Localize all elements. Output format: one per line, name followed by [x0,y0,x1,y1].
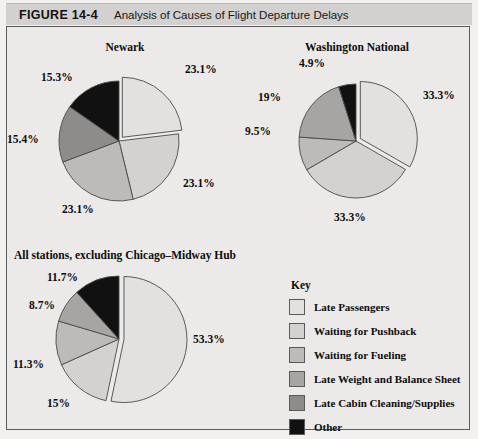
figure-title-label: Analysis of Causes of Flight Departure D… [114,9,349,21]
pie-slice-percent-label: 23.1% [62,203,94,215]
pie-chart [42,262,196,416]
figure-number-label: FIGURE 14-4 [19,8,98,22]
pie-slice-percent-label: 4.9% [299,57,325,69]
legend-item-label: Late Passengers [314,301,389,313]
legend-swatch-icon [289,323,305,339]
legend-item-label: Waiting for Fueling [314,349,406,361]
pie-slice [122,77,182,137]
legend-swatch-icon [289,371,305,387]
legend-item: Late Cabin Cleaning/Supplies [289,391,460,415]
legend-swatch-icon [289,419,305,435]
legend-item: Other [289,415,460,439]
figure-container: FIGURE 14-4 Analysis of Causes of Flight… [0,0,478,439]
pie-slice-percent-label: 33.3% [334,211,366,223]
pie-slice-percent-label: 23.1% [183,177,215,189]
legend-item: Waiting for Pushback [289,319,460,343]
legend-item-label: Late Cabin Cleaning/Supplies [314,397,455,409]
pie-slice-percent-label: 15% [47,397,70,409]
figure-header-bar: FIGURE 14-4 Analysis of Causes of Flight… [6,3,472,25]
legend-rows: Late PassengersWaiting for PushbackWaiti… [289,295,460,439]
pie-slice-percent-label: 11.7% [47,271,78,283]
pie-slice-percent-label: 23.1% [185,63,217,75]
pie-slice [111,277,187,403]
legend-swatch-icon [289,347,305,363]
legend-item: Late Weight and Balance Sheet [289,367,460,391]
figure-body-panel: Newark23.1%23.1%23.1%15.4%15.3%Washingto… [6,26,470,430]
pie-chart [285,70,427,212]
legend-swatch-icon [289,395,305,411]
legend: Key Late PassengersWaiting for PushbackW… [289,279,460,439]
legend-swatch-icon [289,299,305,315]
legend-title: Key [291,279,460,291]
pie-slice-percent-label: 15.3% [41,71,73,83]
legend-item-label: Late Weight and Balance Sheet [314,373,460,385]
pie-chart [45,67,193,215]
legend-item: Late Passengers [289,295,460,319]
pie-slice-percent-label: 8.7% [29,299,55,311]
chart-title: Washington National [197,41,478,53]
legend-item: Waiting for Fueling [289,343,460,367]
legend-item-label: Other [314,421,342,433]
chart-title: All stations, excluding Chicago–Midway H… [0,249,285,261]
pie-slice-percent-label: 15.4% [7,133,39,145]
legend-item-label: Waiting for Pushback [314,325,417,337]
pie-slice-percent-label: 11.3% [13,358,44,370]
pie-slice-percent-label: 9.5% [245,125,271,137]
pie-slice-percent-label: 19% [258,91,281,103]
pie-slice-percent-label: 33.3% [423,89,455,101]
pie-slice-percent-label: 53.3% [193,333,225,345]
